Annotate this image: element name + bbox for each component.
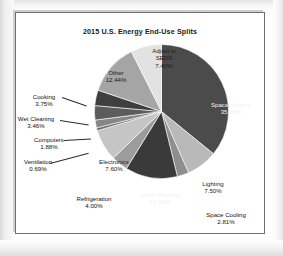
scan-edge-top (0, 0, 283, 10)
scan-edge-right (273, 0, 283, 256)
slice-label-other-value: 12.44% (92, 76, 140, 83)
slice-label-adjust-to-seds-value: 7.40% (140, 62, 188, 69)
slice-label-computers-value: 1.88% (18, 143, 80, 150)
slice-label-other: Other 12.44% (92, 69, 140, 84)
slice-label-cooking-value: 3.75% (18, 100, 70, 107)
slice-label-wet-cleaning: Wet Cleaning 3.46% (5, 115, 67, 130)
slice-label-wet-cleaning-name: Wet Cleaning (5, 115, 67, 122)
slice-label-space-heating-name: Space Heating (196, 101, 266, 108)
slice-label-space-cooling: Space Cooling 2.81% (188, 211, 264, 226)
slice-label-adjust-to-seds-name-line2: SEDS (140, 54, 188, 61)
slice-label-electronics: Electronics 7.60% (86, 158, 142, 173)
scanned-page: 2015 U.S. Energy End-Use Splits Space He… (0, 0, 283, 256)
slice-label-cooking-name: Cooking (18, 93, 70, 100)
slice-label-water-heating-value: 12.59% (126, 198, 194, 205)
slice-label-refrigeration-value: 4.00% (58, 202, 130, 209)
slice-label-lighting: Lighting 7.50% (190, 180, 236, 195)
slice-label-electronics-value: 7.60% (86, 165, 142, 172)
slice-label-adjust-to-seds: Adjust to SEDS 7.40% (140, 47, 188, 69)
slice-label-space-cooling-name: Space Cooling (188, 211, 264, 218)
slice-label-space-heating-value: 35.88% (196, 108, 266, 115)
slice-label-adjust-to-seds-name-line1: Adjust to (140, 47, 188, 54)
slice-label-refrigeration: Refrigeration 4.00% (58, 195, 130, 210)
slice-label-computers-name: Computers (18, 136, 80, 143)
chart-title: 2015 U.S. Energy End-Use Splits (15, 27, 265, 36)
slice-label-wet-cleaning-value: 3.46% (5, 122, 67, 129)
slice-label-cooking: Cooking 3.75% (18, 93, 70, 108)
slice-label-refrigeration-name: Refrigeration (58, 195, 130, 202)
slice-label-lighting-value: 7.50% (190, 187, 236, 194)
slice-label-ventilation: Ventilation 0.69% (8, 158, 68, 173)
slice-label-space-cooling-value: 2.81% (188, 218, 264, 225)
slice-label-space-heating: Space Heating 35.88% (196, 101, 266, 116)
slice-label-ventilation-value: 0.69% (8, 165, 68, 172)
slice-label-ventilation-name: Ventilation (8, 158, 68, 165)
slice-label-electronics-name: Electronics (86, 158, 142, 165)
scan-edge-bottom (0, 240, 283, 256)
slice-label-water-heating-name: Water Heating (126, 191, 194, 198)
slice-label-lighting-name: Lighting (190, 180, 236, 187)
slice-label-computers: Computers 1.88% (18, 136, 80, 151)
slice-label-other-name: Other (92, 69, 140, 76)
slice-label-water-heating: Water Heating 12.59% (126, 191, 194, 206)
